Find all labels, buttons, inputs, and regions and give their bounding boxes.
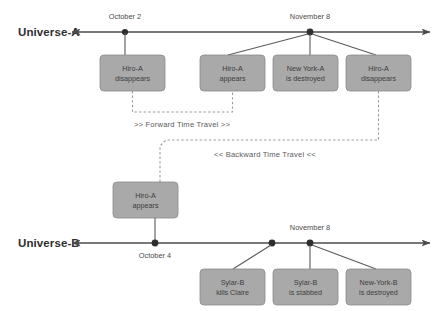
timeline-diagram: Universe-A October 2 November 8 Hiro-A d… [0, 0, 441, 311]
event-box[interactable]: New York-A is destroyed [273, 55, 338, 91]
universe-a-date-october-2: October 2 [109, 12, 141, 21]
event-line-2: disappears [115, 74, 151, 83]
universe-b-group: Hiro-A appears Universe-B October 4 Nove… [18, 182, 430, 305]
event-line-1: Hiro-A [368, 64, 389, 73]
universe-a-group: Universe-A October 2 November 8 Hiro-A d… [18, 12, 430, 91]
event-box-rect[interactable] [346, 55, 411, 91]
backward-time-travel-group: << Backward Time Travel << [160, 91, 379, 182]
event-box-rect[interactable] [100, 55, 165, 91]
event-line-1: New York-A [287, 64, 325, 73]
event-line-1: Sylar-B [221, 278, 245, 287]
universe-b-date-november-8: November 8 [290, 223, 330, 232]
event-line-2: appears [220, 74, 246, 83]
event-box-rect[interactable] [346, 269, 411, 305]
event-box[interactable]: Sylar-B is stabbed [273, 269, 338, 305]
connector-a-nov8-to-hiro-appears [228, 34, 308, 55]
diagram-canvas: Universe-A October 2 November 8 Hiro-A d… [0, 0, 441, 311]
universe-b-date-october-4: October 4 [139, 251, 171, 260]
forward-time-travel-path [133, 91, 233, 112]
universe-a-label: Universe-A [18, 26, 80, 38]
event-line-1: New-York-B [359, 278, 397, 287]
backward-time-travel-label: << Backward Time Travel << [214, 150, 316, 159]
event-line-1: Hiro-A [122, 64, 143, 73]
universe-b-label: Universe-B [18, 237, 80, 249]
backward-time-travel-path [160, 91, 379, 182]
connector-a-nov8-to-hiro-disappears [312, 34, 376, 55]
event-box-rect[interactable] [200, 269, 265, 305]
event-box[interactable]: Sylar-B kills Claire [200, 269, 265, 305]
event-line-1: Hiro-A [222, 64, 243, 73]
event-box[interactable]: Hiro-A appears [200, 55, 265, 91]
event-line-2: kills Claire [216, 288, 249, 297]
event-line-2: is destroyed [286, 74, 325, 83]
event-box[interactable]: Hiro-A disappears [346, 55, 411, 91]
event-line-2: is stabbed [289, 288, 322, 297]
connector-b-node-to-sylar-kills-claire [233, 245, 271, 269]
event-box[interactable]: Hiro-A appears [113, 182, 178, 218]
event-box-rect[interactable] [113, 182, 178, 218]
connector-b-nov8-to-newyork-destroyed [312, 245, 376, 269]
universe-a-date-november-8: November 8 [290, 12, 330, 21]
universe-b-node-october-4 [152, 240, 159, 247]
event-line-1: Sylar-B [294, 278, 318, 287]
event-line-2: is destroyed [359, 288, 398, 297]
forward-time-travel-label: >> Forward Time Travel >> [134, 120, 231, 129]
event-box[interactable]: Hiro-A disappears [100, 55, 165, 91]
event-box-rect[interactable] [273, 55, 338, 91]
event-line-2: appears [133, 201, 159, 210]
event-box-rect[interactable] [273, 269, 338, 305]
event-line-1: Hiro-A [135, 191, 156, 200]
event-line-2: disappears [361, 74, 397, 83]
event-box[interactable]: New-York-B is destroyed [346, 269, 411, 305]
forward-time-travel-group: >> Forward Time Travel >> [133, 91, 233, 129]
event-box-rect[interactable] [200, 55, 265, 91]
